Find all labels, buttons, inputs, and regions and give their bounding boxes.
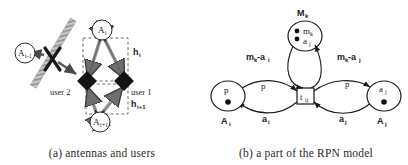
- figure-root: A i A i-1 A i+1 user 2 user 1: [0, 0, 408, 165]
- antenna-bottom-label: A: [93, 117, 100, 127]
- link-Ai1-user2: [88, 88, 96, 112]
- arc-label-ai-sub: i: [268, 119, 270, 125]
- place-Ai: p: [211, 81, 245, 111]
- arc-label-p-left-text: p: [261, 81, 266, 91]
- link-Ai1-user1: [103, 88, 122, 112]
- transition-sub: ij: [305, 97, 309, 103]
- place-Mk-name-sub: k: [305, 13, 309, 19]
- arc-label-mk-ai: m k -a i: [246, 52, 270, 63]
- user-1-label: user 1: [131, 87, 152, 97]
- arc-label-p-right: p: [345, 79, 350, 89]
- token-ai: [225, 99, 231, 105]
- place-Mk-inner-bot-sub: j: [308, 41, 311, 47]
- place-Mk-inner-top: m: [303, 26, 310, 36]
- arc-label-mk-ai-asub: i: [268, 57, 270, 63]
- antennas-diagram: A i A i-1 A i+1 user 2 user 1: [0, 0, 204, 140]
- panel-rpn-model: m k a j M k t ij: [204, 0, 408, 165]
- channel-hi-sub: i: [139, 52, 141, 58]
- arc-label-mk-aj: m k -a j: [337, 52, 361, 63]
- antenna-left: A i-1: [15, 43, 35, 63]
- arc-label-p-left: p: [261, 81, 266, 91]
- arc-Mk-to-tij: [288, 46, 303, 88]
- channel-hi1: h i+1: [131, 99, 146, 110]
- antenna-bottom-sub: i+1: [100, 122, 108, 128]
- place-Ai-inner: p: [224, 85, 229, 95]
- place-Aj-name: A: [377, 116, 384, 126]
- antenna-top: A i: [92, 20, 112, 40]
- place-Ai-name-sub: i: [229, 121, 231, 127]
- link-Ai-user2: [88, 40, 100, 78]
- rpn-diagram: m k a j M k t ij: [204, 0, 408, 140]
- arc-label-p-right-text: p: [345, 79, 350, 89]
- channel-hi-label: h: [133, 47, 139, 57]
- arc-label-aj-sub: j: [344, 119, 347, 125]
- arc-Ai-to-tij: [242, 81, 297, 91]
- link-Ai-user1: [105, 40, 124, 78]
- channel-hi1-label: h: [131, 99, 137, 109]
- arc-label-aj: a j: [339, 114, 347, 125]
- token-mk-1: [295, 29, 300, 34]
- arc-label-ai: a i: [262, 114, 270, 125]
- arc-tij-to-Aj: [314, 81, 370, 91]
- place-Aj-inner: a: [379, 84, 383, 94]
- arc-label-mk-ai-m: m: [246, 52, 254, 62]
- antenna-bottom: A i+1: [90, 112, 110, 132]
- token-mk-2: [295, 37, 300, 42]
- caption-panel-b: (b) a part of the RPN model: [204, 147, 408, 159]
- place-Ai-label: A i: [221, 116, 231, 127]
- antenna-left-sub: i-1: [25, 53, 32, 59]
- place-Aj-label: A j: [377, 116, 387, 127]
- place-Mk-inner-top-sub: k: [310, 31, 313, 37]
- channel-hi1-sub: i+1: [137, 104, 146, 110]
- arc-tij-to-Mk: [311, 45, 321, 88]
- place-Aj-inner-sub: j: [384, 89, 387, 95]
- transition-tij: t ij: [297, 88, 314, 104]
- user-2-marker: [77, 71, 97, 91]
- place-Mk-name: M: [297, 8, 305, 18]
- arc-label-mk-aj-m: m: [337, 52, 345, 62]
- place-Ai-name: A: [221, 116, 228, 126]
- user-2-label: user 2: [50, 87, 71, 97]
- channel-hi: h i: [133, 47, 141, 58]
- arc-label-mk-aj-asub: j: [358, 57, 361, 63]
- arc-Aj-to-tij: [314, 102, 372, 113]
- arc-label-mk-aj-a: -a: [348, 52, 357, 62]
- place-Aj-name-sub: j: [384, 121, 387, 127]
- token-aj: [381, 99, 387, 105]
- arc-tij-to-Ai: [238, 102, 297, 113]
- arc-label-mk-ai-a: -a: [257, 52, 266, 62]
- antenna-top-label: A: [98, 25, 105, 35]
- panel-antennas-and-users: A i A i-1 A i+1 user 2 user 1: [0, 0, 204, 165]
- caption-panel-a: (a) antennas and users: [0, 147, 204, 159]
- place-Mk-inner-bot: a: [303, 36, 307, 46]
- place-Aj: a j: [367, 81, 401, 111]
- place-Mk-label: M k: [297, 8, 309, 19]
- antenna-left-label: A: [18, 48, 25, 58]
